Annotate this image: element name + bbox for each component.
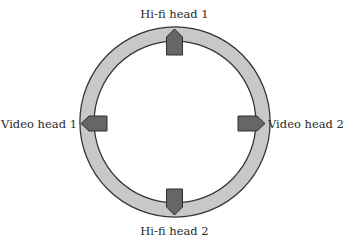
hifi-head-2-label: Hi-fi head 2: [140, 224, 208, 238]
video-head-2-label: Video head 2: [267, 117, 343, 131]
head-drum-diagram: Hi-fi head 1 Video head 1 Video head 2 H…: [0, 0, 343, 243]
video-head-1-label: Video head 1: [0, 117, 77, 131]
hifi-head-1-label: Hi-fi head 1: [140, 7, 208, 21]
head-drum-ring: [87, 34, 263, 210]
ring-band: [87, 34, 263, 210]
